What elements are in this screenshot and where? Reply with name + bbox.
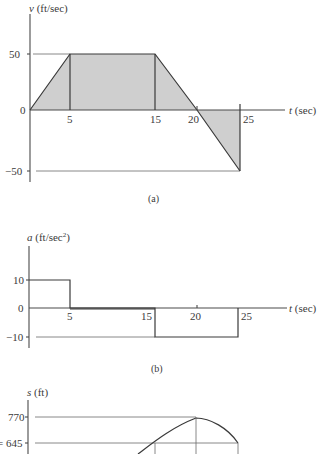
chart-position: s (ft) 770 = 645 bbox=[0, 386, 238, 454]
caption-b: (b) bbox=[151, 363, 163, 375]
ylabel-velocity: v (ft/sec) bbox=[29, 2, 68, 15]
xtick-label-15: 15 bbox=[141, 310, 153, 322]
xtick-label-20: 20 bbox=[188, 113, 200, 125]
position-curve bbox=[138, 418, 238, 454]
ylabel-position: s (ft) bbox=[27, 386, 48, 399]
ylabel-acceleration: a (ft/sec2) bbox=[27, 231, 70, 244]
ytick-label-0: 0 bbox=[20, 104, 26, 116]
xlabel-time: t (sec) bbox=[289, 302, 317, 315]
chart-acceleration: a (ft/sec2) 10 0 −10 5 15 20 25 t (sec) … bbox=[6, 231, 317, 375]
ytick-label-0: 0 bbox=[18, 302, 24, 314]
ytick-label-minus50: −50 bbox=[5, 165, 23, 177]
ytick-label-minus10: −10 bbox=[6, 331, 24, 343]
ytick-label-10: 10 bbox=[13, 274, 25, 286]
xtick-label-25: 25 bbox=[241, 310, 253, 322]
xtick-label-15: 15 bbox=[150, 113, 162, 125]
chart-velocity: v (ft/sec) 50 0 −50 5 15 20 25 t (sec) (… bbox=[5, 2, 317, 205]
xtick-label-20: 20 bbox=[190, 310, 202, 322]
velocity-area-positive bbox=[30, 54, 197, 110]
ytick-label-770: 770 bbox=[8, 411, 25, 423]
ytick-label-50: 50 bbox=[9, 48, 21, 60]
xtick-label-5: 5 bbox=[67, 113, 73, 125]
xtick-label-5: 5 bbox=[67, 310, 73, 322]
caption-a: (a) bbox=[148, 193, 159, 205]
ytick-label-645: = 645 bbox=[0, 437, 23, 449]
kinematics-figure: v (ft/sec) 50 0 −50 5 15 20 25 t (sec) (… bbox=[0, 0, 319, 454]
xtick-label-25: 25 bbox=[243, 113, 255, 125]
xlabel-time: t (sec) bbox=[289, 104, 317, 117]
